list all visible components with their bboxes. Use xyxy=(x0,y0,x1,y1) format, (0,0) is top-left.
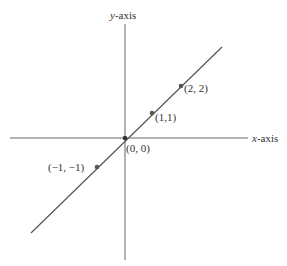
point-origin xyxy=(123,136,128,141)
y-axis-label: y-axis xyxy=(109,9,136,21)
line-y-equals-x xyxy=(31,47,222,233)
x-axis-label: x-axis xyxy=(251,132,278,144)
point-2-2 xyxy=(179,84,184,89)
label-1-1: (1,1) xyxy=(155,111,176,124)
label-origin: (0, 0) xyxy=(126,142,150,155)
coordinate-plane: y-axis x-axis (0, 0) (1,1) (2, 2) (−1, −… xyxy=(0,0,287,266)
point-1-1 xyxy=(150,111,155,116)
point-neg1-neg1 xyxy=(95,165,100,170)
diagram: y-axis x-axis (0, 0) (1,1) (2, 2) (−1, −… xyxy=(0,0,287,266)
label-2-2: (2, 2) xyxy=(184,82,208,95)
label-neg1-neg1: (−1, −1) xyxy=(48,161,85,174)
